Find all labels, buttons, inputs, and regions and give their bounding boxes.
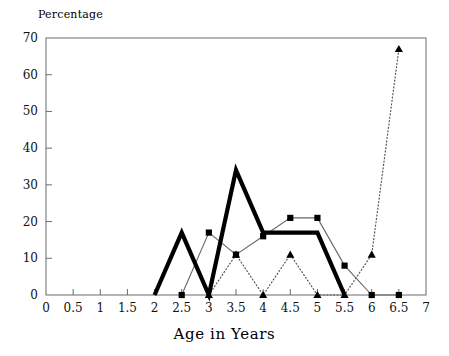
data-point-marker	[395, 45, 403, 52]
chart-container: Percentage 010203040506070 00.511.522.53…	[0, 0, 449, 356]
x-tick-label: 3.5	[226, 301, 245, 315]
x-tick-label: 4	[259, 301, 267, 315]
x-tick-label: 7	[422, 301, 430, 315]
data-point-marker	[233, 252, 239, 258]
x-tick-label: 0.5	[64, 301, 83, 315]
y-tick-label: 70	[23, 31, 38, 45]
y-axis-tick-group: 010203040506070	[23, 31, 52, 302]
y-tick-label: 20	[23, 215, 38, 229]
y-tick-label: 40	[23, 141, 38, 155]
x-tick-label: 3	[205, 301, 213, 315]
data-point-marker	[206, 229, 212, 235]
data-point-marker	[314, 215, 320, 221]
y-tick-label: 10	[23, 251, 38, 265]
y-tick-label: 0	[30, 288, 38, 302]
series-line	[155, 170, 345, 295]
y-tick-label: 30	[23, 178, 38, 192]
x-tick-label: 2	[151, 301, 159, 315]
data-point-marker	[341, 263, 347, 269]
x-tick-label: 2.5	[172, 301, 191, 315]
series-thick-solid-line	[155, 170, 345, 295]
data-point-marker	[369, 292, 375, 298]
data-point-marker	[287, 215, 293, 221]
x-tick-label: 5	[314, 301, 322, 315]
data-series-layer	[155, 45, 403, 298]
data-point-marker	[286, 251, 294, 258]
x-tick-label: 6.5	[389, 301, 408, 315]
data-point-marker	[396, 292, 402, 298]
x-tick-label: 0	[42, 301, 50, 315]
y-tick-label: 50	[23, 104, 38, 118]
data-point-marker	[179, 292, 185, 298]
data-point-marker	[368, 251, 376, 258]
x-tick-label: 1	[96, 301, 104, 315]
x-tick-label: 5.5	[335, 301, 354, 315]
x-tick-label: 4.5	[281, 301, 300, 315]
y-tick-label: 60	[23, 68, 38, 82]
x-tick-label: 6	[368, 301, 376, 315]
x-axis-title: Age in Years	[0, 325, 449, 343]
x-tick-label: 1.5	[118, 301, 137, 315]
plot-area: 010203040506070 00.511.522.533.544.555.5…	[0, 0, 449, 356]
